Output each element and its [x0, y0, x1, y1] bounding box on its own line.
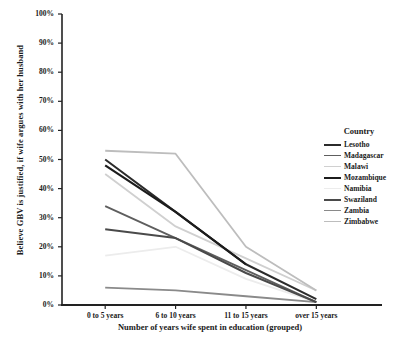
legend-item-label: Lesotho	[344, 140, 369, 149]
legend-item: Mozambique	[324, 172, 414, 183]
series-line-lesotho	[105, 160, 316, 300]
legend-swatch-icon	[324, 188, 341, 189]
y-axis-tick-label: 40%	[20, 185, 54, 193]
legend-item: Madagascar	[324, 150, 414, 161]
legend: Country LesothoMadagascarMalawiMozambiqu…	[324, 126, 414, 227]
legend-item-label: Zimbabwe	[344, 217, 378, 226]
legend-item: Zambia	[324, 205, 414, 216]
y-axis-tick-label: 30%	[20, 214, 54, 222]
legend-item: Malawi	[324, 161, 414, 172]
chart-figure: Believe GBV is justified, if wife argues…	[0, 0, 415, 341]
legend-item-label: Madagascar	[344, 151, 384, 160]
legend-item-label: Mozambique	[344, 173, 386, 182]
x-axis-tick-label: 0 to 5 years	[75, 312, 135, 320]
x-axis-tick-label: 6 to 10 years	[146, 312, 206, 320]
legend-swatch-icon	[324, 155, 341, 156]
legend-item-label: Zambia	[344, 206, 369, 215]
x-axis-tick-label: over 15 years	[286, 312, 346, 320]
legend-item: Lesotho	[324, 139, 414, 150]
y-axis-tick-label: 70%	[20, 97, 54, 105]
legend-item-label: Swaziland	[344, 195, 377, 204]
legend-swatch-icon	[324, 144, 341, 146]
legend-item: Namibia	[324, 183, 414, 194]
legend-swatch-icon	[324, 177, 341, 179]
y-axis-tick-label: 80%	[20, 68, 54, 76]
legend-swatch-icon	[324, 166, 341, 167]
legend-swatch-icon	[324, 210, 341, 211]
x-axis-label: Number of years wife spent in education …	[55, 322, 365, 332]
legend-item: Swaziland	[324, 194, 414, 205]
y-axis-tick-label: 0%	[20, 301, 54, 309]
y-axis-tick-label: 10%	[20, 272, 54, 280]
legend-item-label: Malawi	[344, 162, 368, 171]
legend-item-label: Namibia	[344, 184, 372, 193]
y-axis-tick-label: 90%	[20, 39, 54, 47]
series-line-malawi	[105, 174, 316, 290]
y-axis-tick-label: 50%	[20, 156, 54, 164]
legend-title: Country	[326, 126, 392, 136]
y-axis-tick-label: 60%	[20, 126, 54, 134]
x-axis-tick-label: 11 to 15 years	[216, 312, 276, 320]
y-axis-tick-label: 20%	[20, 243, 54, 251]
legend-items: LesothoMadagascarMalawiMozambiqueNamibia…	[324, 139, 414, 227]
legend-item: Zimbabwe	[324, 216, 414, 227]
legend-swatch-icon	[324, 199, 341, 201]
y-axis-tick-label: 100%	[20, 10, 54, 18]
legend-swatch-icon	[324, 221, 341, 222]
series-line-madagascar	[105, 206, 316, 302]
